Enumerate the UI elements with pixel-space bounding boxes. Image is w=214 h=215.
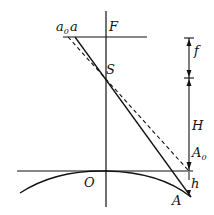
arrow-f-down (187, 70, 192, 77)
label-O: O (84, 175, 95, 190)
arrow-H-up (187, 79, 192, 86)
arrow-f-up (187, 39, 192, 46)
label-H: H (191, 118, 204, 133)
label-h: h (191, 176, 199, 191)
dashed-ray (68, 37, 188, 170)
diagram-canvas: a0 a F S f H A0 O h A (0, 0, 214, 215)
label-A0: A0 (191, 145, 206, 162)
label-a: a (70, 19, 78, 34)
label-f: f (193, 43, 201, 58)
label-a0: a0 (56, 19, 69, 36)
label-F: F (108, 19, 119, 34)
label-S: S (106, 62, 115, 77)
label-A: A (171, 193, 181, 208)
